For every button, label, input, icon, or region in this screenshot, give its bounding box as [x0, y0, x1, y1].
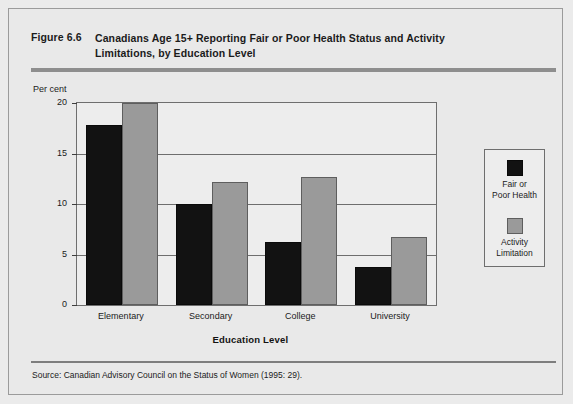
- x-axis-label-secondary: Secondary: [166, 311, 256, 321]
- legend-entry-fair-or-poor-health: Fair or Poor Health: [485, 160, 544, 200]
- bar-elementary-fair-or-poor-health: [86, 125, 122, 305]
- y-tick-mark: [72, 305, 77, 306]
- chart-legend: Fair or Poor Health Activity Limitation: [484, 149, 545, 267]
- legend-entry-activity-limitation: Activity Limitation: [485, 218, 544, 258]
- footer-rule: [31, 361, 556, 363]
- header-rule: [31, 68, 556, 72]
- legend-swatch-activity-limitation: [507, 218, 523, 234]
- bar-secondary-activity-limitation: [212, 182, 248, 305]
- bars-layer: [77, 103, 436, 305]
- figure-number: Figure 6.6: [31, 31, 82, 43]
- figure-title: Canadians Age 15+ Reporting Fair or Poor…: [95, 31, 495, 61]
- y-tick-label: 15: [29, 148, 67, 158]
- figure-root: Figure 6.6 Canadians Age 15+ Reporting F…: [0, 0, 573, 404]
- legend-label-line1: Fair or: [485, 179, 544, 190]
- bar-college-fair-or-poor-health: [265, 242, 301, 305]
- source-note: Source: Canadian Advisory Council on the…: [32, 370, 302, 380]
- x-axis-label-university: University: [345, 311, 435, 321]
- bar-elementary-activity-limitation: [122, 103, 158, 305]
- y-axis-title: Per cent: [33, 84, 67, 94]
- bar-university-activity-limitation: [391, 237, 427, 305]
- legend-swatch-fair-or-poor-health: [507, 160, 523, 176]
- y-tick-label: 5: [29, 249, 67, 259]
- bar-secondary-fair-or-poor-health: [176, 204, 212, 305]
- bar-college-activity-limitation: [301, 177, 337, 305]
- plot-area: 05101520: [76, 102, 437, 306]
- x-axis-label-elementary: Elementary: [76, 311, 166, 321]
- legend-label-line1: Activity: [485, 237, 544, 248]
- y-tick-label: 20: [29, 97, 67, 107]
- y-tick-label: 10: [29, 198, 67, 208]
- legend-label-line2: Poor Health: [485, 190, 544, 201]
- x-axis-title: Education Level: [63, 334, 438, 345]
- legend-label-line2: Limitation: [485, 248, 544, 259]
- bar-university-fair-or-poor-health: [355, 267, 391, 305]
- figure-frame: Figure 6.6 Canadians Age 15+ Reporting F…: [8, 8, 563, 395]
- x-axis-label-college: College: [256, 311, 346, 321]
- y-tick-label: 0: [29, 299, 67, 309]
